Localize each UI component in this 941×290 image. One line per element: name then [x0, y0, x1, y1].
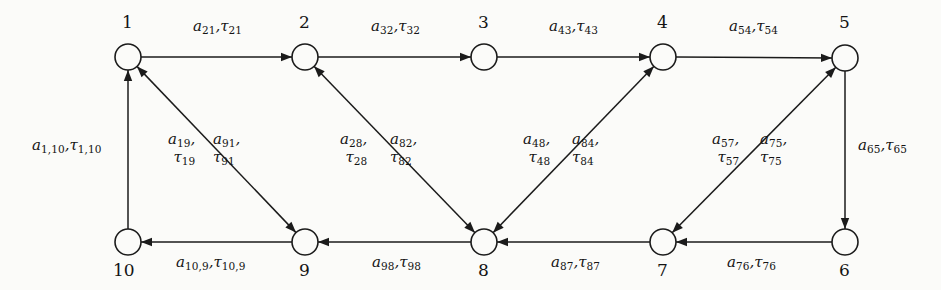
- node-label-5: 5: [839, 14, 850, 31]
- node-label-7: 7: [657, 262, 668, 279]
- arrowhead-9-to-10: [141, 238, 152, 246]
- node-circle-7[interactable]: [650, 229, 676, 255]
- arrowhead-3-to-4: [639, 53, 650, 61]
- edge-8-9[interactable]: [318, 238, 471, 246]
- edge-4-5[interactable]: [676, 54, 832, 62]
- edge-label-10-9: a10,9,τ10,9: [176, 254, 246, 272]
- edge-6-7[interactable]: [676, 238, 832, 246]
- node-label-3: 3: [478, 14, 489, 31]
- edge-label-57: a57,τ57: [712, 131, 739, 168]
- node-circle-9[interactable]: [292, 229, 318, 255]
- node-circle-5[interactable]: [832, 45, 858, 71]
- edge-label-28: a28,τ28: [340, 131, 367, 168]
- node-label-4: 4: [657, 14, 668, 31]
- node-circle-6[interactable]: [832, 229, 858, 255]
- arrowhead-6-to-7: [676, 238, 687, 246]
- arrowhead-5-to-6: [841, 218, 849, 229]
- edge-label-84: a84,τ84: [572, 131, 599, 168]
- node-circle-1[interactable]: [115, 44, 141, 70]
- edge-5-6[interactable]: [841, 71, 849, 229]
- edge-label-82: a82,τ82: [390, 131, 417, 168]
- arrowhead-10-to-1: [124, 70, 132, 81]
- arrowhead-1-to-2: [281, 53, 292, 61]
- edge-label-1-10: a1,10,τ1,10: [32, 137, 102, 155]
- node-label-8: 8: [478, 262, 489, 279]
- edge-2-3[interactable]: [318, 53, 471, 61]
- edge-7-5[interactable]: [672, 67, 836, 233]
- figure-canvas: 12345678910a21,τ21a32,τ32a43,τ43a54,τ54a…: [0, 0, 941, 290]
- edge-label-21: a21,τ21: [193, 18, 242, 36]
- edge-7-8[interactable]: [497, 238, 650, 246]
- node-label-10: 10: [113, 262, 135, 279]
- edge-label-87: a87,τ87: [551, 254, 600, 272]
- edge-label-54: a54,τ54: [729, 18, 778, 36]
- edge-1-2[interactable]: [141, 53, 292, 61]
- edge-label-76: a76,τ76: [727, 254, 776, 272]
- edge-9-10[interactable]: [141, 238, 292, 246]
- node-circle-10[interactable]: [115, 229, 141, 255]
- node-label-1: 1: [122, 14, 133, 31]
- arrowhead-4-to-5: [821, 54, 832, 62]
- node-label-2: 2: [299, 14, 310, 31]
- arrowhead-7-to-8: [497, 238, 508, 246]
- arrowhead-8-to-9: [318, 238, 329, 246]
- edge-label-98: a98,τ98: [372, 254, 421, 272]
- edge-label-75: a75,τ75: [760, 131, 787, 168]
- edge-label-48: a48,τ48: [523, 131, 550, 168]
- arrowhead-2-to-3: [460, 53, 471, 61]
- node-label-6: 6: [839, 262, 850, 279]
- node-circle-3[interactable]: [471, 44, 497, 70]
- edge-line-4-5: [676, 57, 832, 58]
- edge-10-1[interactable]: [124, 70, 132, 229]
- node-circle-2[interactable]: [292, 44, 318, 70]
- edge-label-43: a43,τ43: [549, 18, 598, 36]
- edge-line-7-5: [672, 67, 836, 233]
- node-circle-4[interactable]: [650, 44, 676, 70]
- edge-label-19: a19,τ19: [168, 131, 195, 168]
- edge-label-32: a32,τ32: [371, 18, 420, 36]
- edge-label-91: a91,τ91: [213, 131, 240, 168]
- edge-3-4[interactable]: [497, 53, 650, 61]
- node-circle-8[interactable]: [471, 229, 497, 255]
- edge-label-65: a65,τ65: [858, 137, 907, 155]
- graph-svg: [0, 0, 941, 290]
- node-label-9: 9: [299, 262, 310, 279]
